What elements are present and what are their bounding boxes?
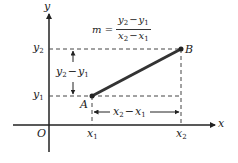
x-axis-label: x (218, 118, 224, 129)
point-b-label: B (185, 44, 193, 55)
rise-label: y2−y1 (56, 66, 89, 79)
point-b (179, 47, 184, 52)
run-label: x2−x1 (113, 106, 146, 119)
y2-label: y2 (33, 42, 44, 55)
x2-label: x2 (176, 128, 187, 141)
y1-label: y1 (33, 89, 44, 102)
point-a-label: A (80, 99, 88, 110)
formula-numerator: y2−y1 (116, 14, 151, 29)
formula-lhs: m = (92, 24, 113, 35)
origin-label: O (37, 128, 46, 139)
y-axis-label: y (44, 1, 50, 12)
x1-label: x1 (87, 128, 98, 141)
segment-ab (92, 49, 181, 96)
slope-formula: m = y2−y1 x2−x1 (92, 14, 151, 45)
point-a (90, 94, 95, 99)
formula-denominator: x2−x1 (116, 30, 151, 45)
